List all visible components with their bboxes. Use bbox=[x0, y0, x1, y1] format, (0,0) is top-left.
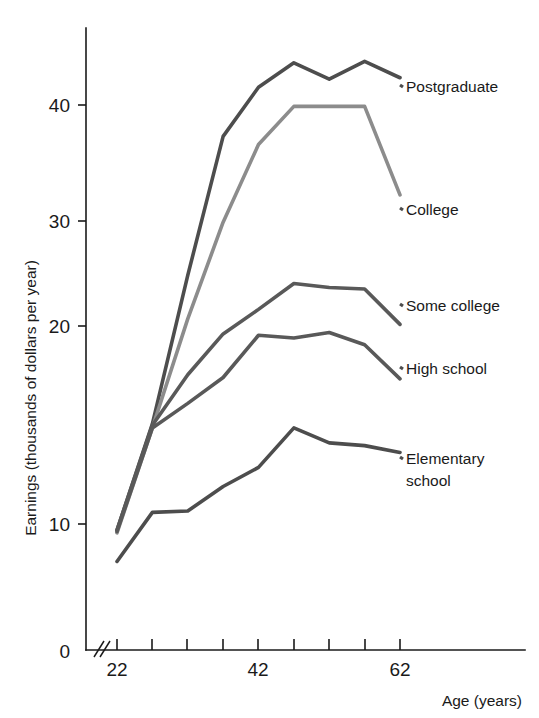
series-label-elementary-line2: school bbox=[406, 472, 451, 489]
earnings-by-age-line-chart: 40 30 20 10 0 22 42 62 Earnings (thousan… bbox=[0, 0, 539, 718]
x-tick-label-62: 62 bbox=[389, 659, 410, 680]
y-tick-label-30: 30 bbox=[49, 211, 70, 232]
series-label-college: College bbox=[406, 201, 459, 218]
chart-canvas: 40 30 20 10 0 22 42 62 Earnings (thousan… bbox=[0, 0, 539, 718]
series-line-postgraduate bbox=[117, 61, 400, 530]
y-tick-label-0: 0 bbox=[59, 641, 70, 662]
series-label-elementary-line1: Elementary bbox=[406, 450, 485, 467]
series-label-postgraduate: Postgraduate bbox=[406, 78, 498, 95]
y-axis-title: Earnings (thousands of dollars per year) bbox=[22, 260, 39, 536]
series-layer bbox=[117, 61, 403, 561]
series-line-high-school bbox=[117, 333, 400, 532]
x-tick-label-42: 42 bbox=[247, 659, 268, 680]
series-line-elementary-school bbox=[117, 428, 400, 562]
y-axis-ticks bbox=[78, 105, 86, 524]
y-tick-label-40: 40 bbox=[49, 95, 70, 116]
x-axis-break-icon bbox=[94, 641, 110, 657]
leader-college bbox=[400, 208, 403, 210]
y-tick-label-10: 10 bbox=[49, 514, 70, 535]
leader-elementary bbox=[400, 457, 403, 459]
series-label-high-school: High school bbox=[406, 360, 487, 377]
x-axis-title: Age (years) bbox=[442, 692, 522, 709]
leader-some-college bbox=[400, 304, 403, 306]
leader-high-school bbox=[400, 367, 403, 369]
x-axis-ticks bbox=[117, 639, 400, 650]
series-label-some-college: Some college bbox=[406, 297, 500, 314]
y-tick-label-20: 20 bbox=[49, 316, 70, 337]
leader-postgraduate bbox=[400, 85, 403, 87]
x-tick-label-22: 22 bbox=[106, 659, 127, 680]
